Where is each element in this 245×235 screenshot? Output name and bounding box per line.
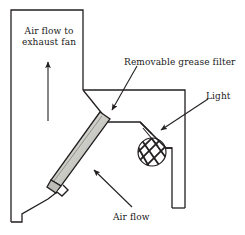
canopy-top-and-right-wall [83, 90, 185, 208]
canopy-inner-edge [104, 122, 152, 134]
label-air-flow: Air flow [113, 212, 150, 223]
grease-filter [47, 112, 110, 196]
label-airflow-to-exhaust-fan: Air flow to exhaust fan [22, 26, 76, 48]
intake-airflow-arrow [94, 170, 132, 207]
bottom-left-lip [11, 192, 57, 222]
label-light: Light [206, 91, 231, 102]
grease-filter-leader-arrow [112, 66, 137, 110]
lamp-shelf-right [166, 148, 172, 208]
diagram-canvas: Air flow to exhaust fan Removable grease… [0, 0, 245, 235]
label-removable-grease-filter: Removable grease filter [124, 57, 236, 68]
label-airflow-exhaust-line1: Air flow to [22, 26, 76, 37]
label-airflow-exhaust-line2: exhaust fan [22, 37, 76, 48]
light-fixture [134, 120, 176, 176]
grease-filter-body [51, 112, 110, 186]
annotation-arrows [48, 62, 208, 207]
